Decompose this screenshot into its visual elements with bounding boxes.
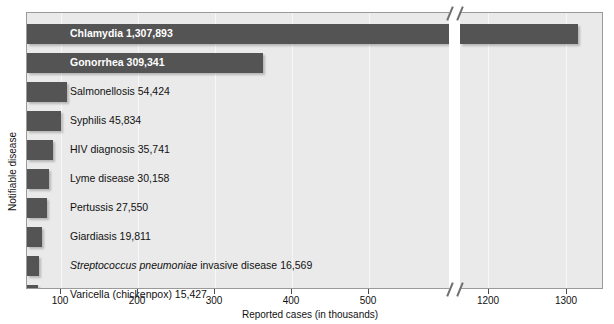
gridline-1300 [566,13,567,288]
xtick-300 [214,289,215,294]
bar-chlamydia-continued [460,24,578,44]
bar-giardiasis [27,227,42,247]
bar-label-gonorrhea: Gonorrhea 309,341 [70,56,165,68]
bar-label-lyme-disease: Lyme disease 30,158 [70,172,169,184]
bar-label-syphilis: Syphilis 45,834 [70,114,141,126]
bar-label-pertussis: Pertussis 27,550 [70,201,148,213]
xtick-200 [137,289,138,294]
bar-salmonellosis [27,82,67,102]
gridline-400 [292,13,293,288]
xtick-label-1200: 1200 [463,295,513,306]
x-axis-title: Reported cases (in thousands) [18,309,602,320]
gridline-1200 [488,13,489,288]
xtick-label-200: 200 [112,295,162,306]
xtick-1300 [566,289,567,294]
xtick-label-300: 300 [189,295,239,306]
bar-label-species-name: Streptococcus pneumoniae [70,259,197,271]
bar-lyme-disease [27,169,49,189]
xtick-label-400: 400 [266,295,316,306]
bar-pertussis [27,198,47,218]
y-axis-title: Notifiable disease [7,82,18,262]
bar-varicella [27,285,38,289]
xtick-100 [60,289,61,294]
xtick-1200 [488,289,489,294]
xtick-400 [291,289,292,294]
bar-streptococcus-pneumoniae [27,256,39,276]
gridline-500 [369,13,370,288]
xtick-label-500: 500 [343,295,393,306]
bar-label-streptococcus-rest: invasive disease 16,569 [197,259,312,271]
bar-syphilis [27,111,61,131]
bar-label-giardiasis: Giardiasis 19,811 [70,230,151,242]
chart-figure: Notifiable disease Chlamydia 1,307,893 G… [0,0,614,324]
bar-label-salmonellosis: Salmonellosis 54,424 [70,85,170,97]
xtick-500 [368,289,369,294]
bar-label-chlamydia: Chlamydia 1,307,893 [70,27,173,39]
xtick-label-100: 100 [35,295,85,306]
bar-label-streptococcus-pneumoniae: Streptococcus pneumoniae invasive diseas… [70,259,312,271]
xtick-label-1300: 1300 [541,295,591,306]
bar-hiv-diagnosis [27,140,53,160]
bar-label-hiv-diagnosis: HIV diagnosis 35,741 [70,143,170,155]
plot-panel-right [460,12,603,289]
